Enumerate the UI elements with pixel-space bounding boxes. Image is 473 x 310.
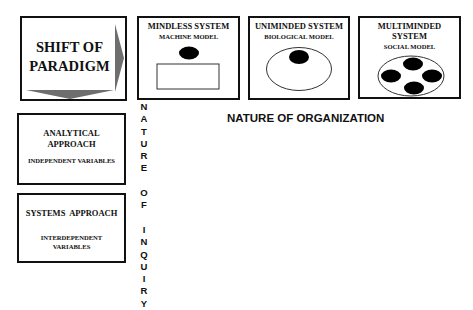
axis-letter: Q [137,249,151,261]
mind-oval-icon [403,58,423,71]
mind-oval-icon [179,47,199,60]
biological-model-diagram [250,18,352,102]
axis-letter: F [137,199,151,211]
approach-title: SYSTEMS APPROACH [19,208,124,219]
systems-approach-box: SYSTEMS APPROACH INTERDEPENDENT VARIABLE… [17,193,126,263]
multiminded-system-box: MULTIMINDED SYSTEM SOCIAL MODEL [358,16,461,99]
social-model-diagram [360,18,463,101]
axis-letter: A [137,113,151,125]
approach-subtitle: INDEPENDENT VARIABLES [19,156,124,165]
axis-letter [137,212,151,224]
right-arrow-icon [115,24,125,94]
axis-letter: T [137,126,151,138]
axis-letter: N [137,101,151,113]
axis-letter [137,175,151,187]
mind-oval-icon [404,82,424,95]
mind-oval-icon [422,70,442,83]
axis-letter: R [137,285,151,297]
axis-letter: R [137,150,151,162]
axis-letter: O [137,187,151,199]
paradigm-title: SHIFT OF PARADIGM [22,38,117,76]
approach-subtitle: INTERDEPENDENT VARIABLES [19,233,124,251]
uniminded-system-box: UNIMINDED SYSTEM BIOLOGICAL MODEL [248,16,350,100]
shift-of-paradigm-box: SHIFT OF PARADIGM [20,16,127,101]
axis-letter: N [137,236,151,248]
nature-of-organization-axis-label: NATURE OF ORGANIZATION [227,111,384,125]
machine-model-diagram [139,18,242,102]
mind-oval-icon [289,50,309,64]
axis-letter: I [137,273,151,285]
axis-letter: U [137,261,151,273]
approach-title: ANALYTICAL APPROACH [19,128,124,150]
mindless-system-box: MINDLESS SYSTEM MACHINE MODEL [137,16,240,100]
axis-letter: E [137,162,151,174]
axis-letter: I [137,224,151,236]
axis-letter: Y [137,298,151,310]
down-arrow-icon [26,90,116,100]
machine-rectangle-icon [157,64,219,89]
analytical-approach-box: ANALYTICAL APPROACH INDEPENDENT VARIABLE… [17,113,126,185]
mind-oval-icon [381,70,401,83]
nature-of-inquiry-axis-label: N A T U R E O F I N Q U I R Y [137,101,151,310]
axis-letter: U [137,138,151,150]
